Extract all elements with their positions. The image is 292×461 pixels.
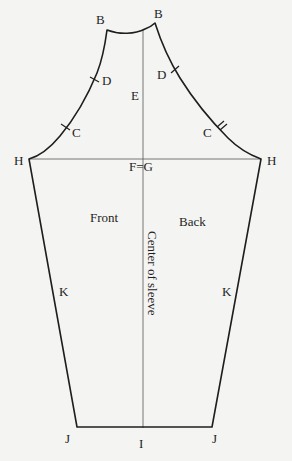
label-H-left: H — [14, 154, 23, 167]
notch-back-C-2 — [220, 124, 227, 130]
label-E: E — [131, 89, 139, 102]
label-center-of-sleeve: Center of sleeve — [146, 231, 159, 315]
notch-back-D — [171, 66, 179, 73]
label-K-left: K — [59, 285, 68, 298]
sleeve-outline — [29, 23, 261, 427]
label-back: Back — [179, 215, 206, 228]
label-I: I — [139, 437, 143, 450]
label-B-left: B — [96, 13, 105, 26]
label-D-left: D — [102, 74, 111, 87]
label-front: Front — [90, 211, 118, 224]
label-C-right: C — [203, 126, 212, 139]
label-J-left: J — [65, 432, 70, 445]
label-F-equals-G: F=G — [129, 160, 153, 173]
label-K-right: K — [222, 285, 231, 298]
notch-back-C-1 — [217, 121, 224, 127]
label-C-left: C — [72, 126, 81, 139]
sleeve-pattern-diagram: B B D D E C C H H F=G Front Back Center … — [0, 0, 292, 461]
label-B-right: B — [154, 7, 163, 20]
label-H-right: H — [267, 154, 276, 167]
label-J-right: J — [212, 432, 217, 445]
label-D-right: D — [157, 68, 166, 81]
